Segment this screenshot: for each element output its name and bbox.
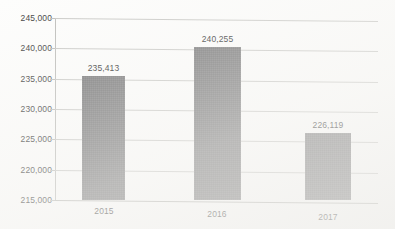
category-axis-line [55,200,378,204]
y-axis-tick-label: 215,000 [4,195,52,205]
y-axis-tick-label: 225,000 [4,134,52,144]
y-axis-tick-label: 235,000 [4,74,52,84]
data-label-2017: 226,119 [313,120,344,130]
y-axis-tick-label: 245,000 [4,13,52,23]
y-axis-tick-label: 220,000 [4,165,52,175]
gridline [55,18,378,22]
y-axis-labels: 245,000 240,000 235,000 230,000 225,000 … [0,0,52,229]
x-axis-labels: 2015 2016 2017 [0,205,395,221]
x-axis-tick-label-2017: 2017 [318,212,337,222]
bar-2016[interactable] [194,47,241,200]
x-axis-tick-label-2016: 2016 [207,209,226,219]
bar-2017[interactable] [305,133,351,201]
bar-chart: 245,000 240,000 235,000 230,000 225,000 … [0,0,395,229]
y-axis-tick-label: 240,000 [4,43,52,53]
plot-area: 235,413 240,255 226,119 [55,18,378,200]
bar-2015[interactable] [82,76,125,200]
y-axis-tick-label: 230,000 [4,104,52,114]
data-label-2016: 240,255 [202,34,233,44]
data-label-2015: 235,413 [88,63,119,73]
x-axis-tick-label-2015: 2015 [94,206,113,216]
